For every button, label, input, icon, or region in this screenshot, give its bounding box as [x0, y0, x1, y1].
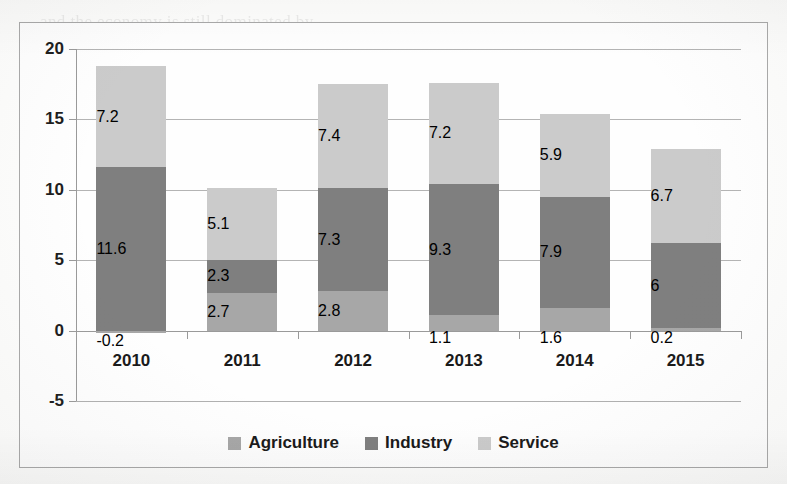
legend-label: Agriculture — [248, 433, 339, 453]
bar-value-label: 1.6 — [540, 329, 562, 347]
bar-value-label: 7.2 — [429, 124, 451, 142]
x-axis-tick — [741, 331, 742, 339]
gridline — [76, 190, 741, 191]
x-axis-tick — [187, 331, 188, 339]
legend-swatch-icon — [478, 437, 491, 450]
bar-value-label: 5.1 — [207, 215, 229, 233]
bar-2010: -0.211.67.2 — [96, 49, 166, 401]
y-axis-tick-label: 20 — [45, 39, 64, 59]
legend-item-agriculture[interactable]: Agriculture — [228, 433, 339, 453]
bar-2015: 0.266.7 — [651, 49, 721, 401]
legend-label: Service — [498, 433, 559, 453]
plot-area: 20151050-5 -0.211.67.22.72.35.12.87.37.4… — [76, 49, 741, 401]
y-axis-tick — [69, 260, 77, 261]
x-axis-label-2015: 2015 — [621, 351, 751, 371]
chart-frame: 20151050-5 -0.211.67.22.72.35.12.87.37.4… — [19, 22, 768, 468]
bar-value-label: 0.2 — [651, 329, 673, 347]
bar-value-label: 6.7 — [651, 187, 673, 205]
legend-separator — [76, 401, 741, 402]
y-axis-tick — [69, 49, 77, 50]
x-axis-tick — [630, 331, 631, 339]
bar-value-label: 9.3 — [429, 241, 451, 259]
bar-value-label: 7.2 — [96, 108, 118, 126]
x-axis-tick — [298, 331, 299, 339]
bar-segment-industry-2015 — [651, 243, 721, 327]
legend-item-service[interactable]: Service — [478, 433, 559, 453]
bar-value-label: 7.9 — [540, 243, 562, 261]
chart-legend: AgricultureIndustryService — [20, 433, 767, 453]
y-axis-tick — [69, 119, 77, 120]
y-axis-tick — [69, 331, 77, 332]
y-axis-tick — [69, 190, 77, 191]
bar-2012: 2.87.37.4 — [318, 49, 388, 401]
legend-label: Industry — [385, 433, 452, 453]
bar-2014: 1.67.95.9 — [540, 49, 610, 401]
x-axis-tick — [409, 331, 410, 339]
bar-value-label: 7.3 — [318, 231, 340, 249]
y-axis-tick-label: 0 — [55, 321, 64, 341]
y-axis-tick-label: -5 — [49, 391, 64, 411]
legend-item-industry[interactable]: Industry — [365, 433, 452, 453]
y-axis-line — [76, 49, 77, 401]
bar-2011: 2.72.35.1 — [207, 49, 277, 401]
gridline — [76, 260, 741, 261]
legend-swatch-icon — [228, 437, 241, 450]
bar-value-label: 2.3 — [207, 267, 229, 285]
gridline — [76, 119, 741, 120]
bar-value-label: 5.9 — [540, 146, 562, 164]
gridline — [76, 49, 741, 50]
bar-value-label: 7.4 — [318, 127, 340, 145]
y-axis-tick-label: 5 — [55, 250, 64, 270]
bar-2013: 1.19.37.2 — [429, 49, 499, 401]
bar-value-label: 1.1 — [429, 329, 451, 347]
bar-value-label: 2.7 — [207, 303, 229, 321]
bar-value-label: 6 — [651, 277, 660, 295]
x-axis-tick — [519, 331, 520, 339]
y-axis-tick-label: 10 — [45, 180, 64, 200]
bar-value-label: 2.8 — [318, 302, 340, 320]
bar-value-label: -0.2 — [96, 332, 124, 350]
y-axis-tick-label: 15 — [45, 109, 64, 129]
bar-value-label: 11.6 — [96, 240, 126, 258]
bar-segment-agriculture-2014 — [540, 308, 610, 331]
legend-swatch-icon — [365, 437, 378, 450]
